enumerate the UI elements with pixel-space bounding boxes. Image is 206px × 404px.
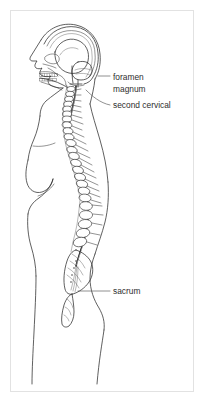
- spine-anatomy-illustration: foramen magnum second cervical sacrum: [0, 0, 206, 404]
- anatomy-figure-root: foramen magnum second cervical sacrum: [0, 0, 206, 404]
- skull-group: [40, 27, 99, 94]
- cervical-vertebrae-group: [62, 86, 83, 124]
- label-second-cervical: second cervical: [113, 100, 171, 110]
- labels-group: foramen magnum second cervical sacrum: [113, 72, 171, 296]
- thoracic-vertebrae-group: [62, 121, 101, 203]
- coccyx-group: [62, 294, 74, 327]
- leader-second-cervical: [86, 90, 110, 105]
- label-foramen-magnum-line1: foramen: [113, 72, 144, 82]
- label-sacrum: sacrum: [113, 286, 140, 296]
- body-outline-group: [26, 24, 108, 384]
- label-foramen-magnum-line2: magnum: [113, 84, 146, 94]
